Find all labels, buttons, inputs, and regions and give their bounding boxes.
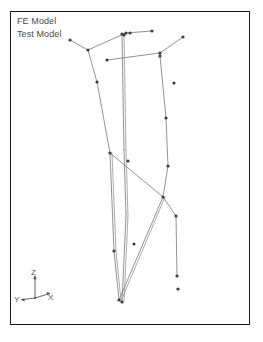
test-model-node [126, 159, 129, 162]
fe-model-node [150, 29, 153, 32]
test-model-edge [124, 34, 126, 150]
axis-triad: Z X Y [14, 268, 60, 310]
fe-model-node [95, 80, 98, 83]
fe-model-edge [160, 37, 183, 53]
axis-label-z: Z [31, 268, 36, 277]
fe-model-edge [163, 166, 168, 197]
fe-model-edge [160, 56, 166, 118]
fe-model-node [181, 35, 184, 38]
fe-model-node [128, 31, 131, 34]
fe-model-node [166, 164, 169, 167]
fe-model-node [105, 58, 108, 61]
axis-triad-arrows [14, 268, 60, 310]
legend: FE Model Test Model [17, 15, 62, 41]
legend-entry-fe-model: FE Model [17, 15, 62, 28]
fe-model-node [158, 51, 161, 54]
test-model-node [132, 242, 135, 245]
figure-page: FE Model Test Model Z X Y [0, 0, 263, 342]
test-model-node [172, 81, 175, 84]
fe-model-edge [88, 50, 97, 82]
fe-model-edge [97, 82, 110, 153]
fe-model-edge [124, 150, 126, 216]
fe-model-edge [70, 40, 88, 50]
fe-model-edge [122, 34, 124, 150]
fe-model-edge [166, 118, 168, 166]
fe-model-edge [110, 153, 163, 197]
fe-model-node [120, 300, 123, 303]
fe-model-node [108, 151, 111, 154]
fe-model-node [161, 195, 164, 198]
axis-label-x: X [48, 293, 53, 302]
fe-model-node [86, 48, 89, 51]
axis-label-y: Y [14, 295, 19, 304]
fe-model-edge [163, 197, 176, 216]
legend-entry-test-model: Test Model [17, 28, 62, 41]
test-model-node-group [126, 81, 179, 290]
test-model-edge [112, 153, 116, 251]
fe-model-edge [88, 33, 126, 50]
test-model-node [176, 287, 179, 290]
test-model-edge-group [112, 34, 165, 302]
fe-model-node [122, 33, 125, 36]
fe-model-node [112, 249, 115, 252]
fe-model-node [117, 298, 120, 301]
fe-model-node [174, 214, 177, 217]
fe-model-edge [107, 53, 160, 60]
fe-model-node [164, 116, 167, 119]
fe-model-node [158, 54, 161, 57]
fe-model-edge [176, 216, 177, 276]
fe-model-edge [110, 153, 114, 251]
fe-model-node [68, 38, 71, 41]
fe-model-node [175, 274, 178, 277]
